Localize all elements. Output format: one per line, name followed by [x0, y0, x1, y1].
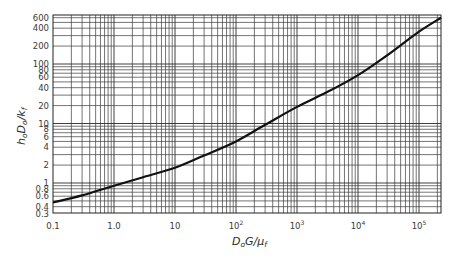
x-tick-label: 10 — [170, 221, 181, 231]
y-tick-label: 400 — [33, 23, 49, 33]
y-tick-label: 200 — [33, 41, 49, 51]
y-tick-label: 1 — [44, 178, 49, 188]
x-tick-label: 104 — [351, 219, 366, 231]
y-tick-label: 600 — [33, 13, 49, 23]
x-axis-ticks: 0.11.010102103104105 — [46, 219, 426, 231]
x-tick-label: 103 — [290, 219, 305, 231]
y-tick-label: 4 — [44, 142, 49, 152]
y-tick-label: 20 — [38, 101, 49, 111]
x-axis-label: DoG/μf — [232, 235, 268, 249]
x-tick-label: 105 — [412, 219, 427, 231]
chart: 0.11.010102103104105 0.30.40.60.81246810… — [0, 0, 452, 261]
x-tick-label: 102 — [229, 219, 244, 231]
y-tick-label: 10 — [38, 119, 49, 129]
y-axis-label: hoDo/kf — [15, 106, 29, 145]
x-tick-label: 0.1 — [46, 221, 60, 231]
x-tick-label: 1.0 — [107, 221, 121, 231]
y-tick-label: 2 — [44, 160, 49, 170]
y-tick-label: 100 — [33, 59, 49, 69]
y-tick-label: 40 — [38, 83, 49, 93]
y-axis-ticks: 0.30.40.60.8124681020406080100200400600 — [33, 13, 49, 219]
grid-lines — [53, 15, 441, 213]
y-tick-label: 0.4 — [35, 202, 49, 212]
